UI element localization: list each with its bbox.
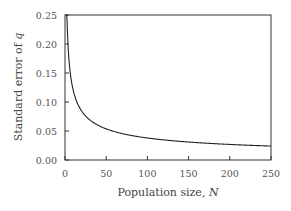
x-tick-label: 150 (180, 168, 198, 179)
chart: 0.000.050.100.150.200.25 050100150200250… (0, 0, 291, 211)
plot-frame (65, 15, 271, 160)
x-axis: 050100150200250 (62, 156, 280, 179)
x-tick-label: 200 (221, 168, 239, 179)
y-tick-label: 0.00 (36, 155, 57, 166)
y-tick-label: 0.10 (36, 97, 57, 108)
x-tick-label: 250 (262, 168, 280, 179)
x-axis-label: Population size, N (117, 186, 218, 199)
x-tick-label: 50 (100, 168, 112, 179)
y-tick-label: 0.05 (36, 126, 57, 137)
y-tick-label: 0.15 (36, 68, 57, 79)
y-tick-label: 0.20 (36, 39, 57, 50)
y-tick-label: 0.25 (36, 10, 57, 21)
y-axis: 0.000.050.100.150.200.25 (36, 10, 69, 166)
x-tick-label: 0 (62, 168, 68, 179)
y-axis-label: Standard error of q (12, 33, 25, 142)
x-tick-label: 100 (138, 168, 156, 179)
data-line (66, 15, 271, 146)
